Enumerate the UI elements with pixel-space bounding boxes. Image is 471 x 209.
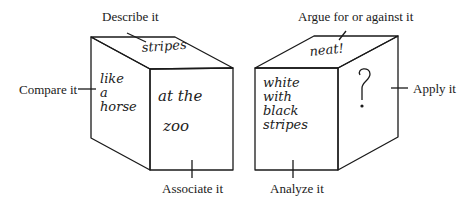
apply-label: Apply it [413, 82, 456, 95]
left-top-face-text: stripes [141, 37, 187, 55]
left-front-text-line2: zoo [162, 117, 189, 135]
describe-label: Describe it [102, 10, 159, 23]
right-cube-right-face [338, 36, 398, 170]
cubing-diagram: stripes like a horse at the zoo neat! wh… [0, 0, 471, 209]
left-side-text-line2: a [100, 85, 108, 100]
right-front-text-line4: stripes [263, 117, 308, 132]
compare-label: Compare it [19, 83, 77, 96]
right-front-text-line2: with [263, 89, 292, 104]
question-mark-icon [359, 69, 370, 100]
argue-label: Argue for or against it [298, 10, 413, 23]
left-front-text-line1: at the [158, 87, 202, 105]
right-top-face-text: neat! [309, 40, 345, 58]
right-front-text-line3: black [263, 103, 299, 118]
cubes-drawing: stripes like a horse at the zoo neat! wh… [0, 0, 471, 209]
analyze-label: Analyze it [270, 182, 324, 195]
left-side-text-line3: horse [100, 99, 137, 114]
right-front-text-line1: white [263, 75, 300, 90]
left-side-text-line1: like [100, 71, 124, 86]
question-mark-dot-icon [360, 104, 363, 107]
associate-label: Associate it [162, 182, 223, 195]
